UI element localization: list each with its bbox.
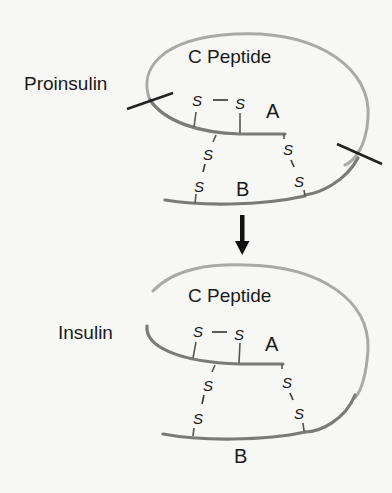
sulfur-atom: S xyxy=(192,92,202,109)
sulfur-atom: S xyxy=(283,141,293,158)
b-chain xyxy=(165,196,305,204)
chain-b-label: B xyxy=(234,445,247,467)
arrow-down-icon xyxy=(235,215,250,255)
chain-a-label: A xyxy=(266,100,280,122)
sulfur-atom: S xyxy=(194,178,204,195)
sulfur-atom: S xyxy=(235,95,245,112)
proinsulin-panel: S S S S S S C Peptide Proinsulin A B xyxy=(24,34,382,204)
a-chain xyxy=(150,100,285,134)
sulfur-atom: S xyxy=(282,374,292,391)
proinsulin-insulin-diagram: S S S S S S C Peptide Proinsulin A B xyxy=(0,0,392,493)
sulfur-atom: S xyxy=(294,405,304,422)
cleavage-mark-left xyxy=(127,93,173,109)
insulin-panel: S S S S S S C Peptide Insulin A B xyxy=(58,265,368,467)
sulfur-atom: S xyxy=(234,326,244,343)
proinsulin-label: Proinsulin xyxy=(24,73,107,94)
c-peptide-label: C Peptide xyxy=(188,46,271,67)
sulfur-atom: S xyxy=(193,410,203,427)
b-chain xyxy=(163,432,305,439)
chain-a-label: A xyxy=(265,333,279,355)
sulfur-atom: S xyxy=(294,173,304,190)
b-chain-connector xyxy=(305,395,355,432)
insulin-label: Insulin xyxy=(58,322,113,343)
c-peptide-label: C Peptide xyxy=(188,285,271,306)
cleavage-mark-right xyxy=(337,144,382,164)
sulfur-atom: S xyxy=(203,146,213,163)
sulfur-atom: S xyxy=(203,377,213,394)
chain-b-label: B xyxy=(236,178,249,200)
sulfur-atom: S xyxy=(193,323,203,340)
